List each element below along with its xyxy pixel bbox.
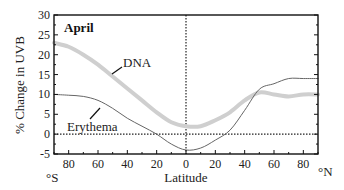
erythema-leader-line	[90, 108, 100, 119]
x-tick-label: 40	[239, 157, 251, 171]
x-tick-label: 20	[209, 157, 221, 171]
dna-leader-line	[112, 67, 122, 74]
y-tick-label: 15	[38, 68, 50, 82]
x-left-unit: °S	[46, 170, 58, 185]
y-tick-label: 0	[44, 127, 50, 141]
x-tick-label: 20	[151, 157, 163, 171]
x-tick-label: 40	[121, 157, 133, 171]
x-axis-title: Latitude	[164, 170, 208, 185]
y-tick-label: 5	[44, 107, 50, 121]
x-tick-label: 0	[183, 157, 189, 171]
series-annotations: DNAErythema	[67, 55, 152, 134]
erythema-label: Erythema	[67, 119, 118, 134]
y-axis-title: % Change in UVB	[12, 36, 27, 134]
chart-title: April	[64, 20, 94, 35]
x-tick-label: 80	[297, 157, 309, 171]
x-tick-label: 60	[92, 157, 104, 171]
y-tick-label: 25	[38, 28, 50, 42]
y-tick-label: 20	[38, 48, 50, 62]
x-right-unit: °N	[318, 164, 333, 179]
uvb-change-chart: -5051015202530 80604020020406080 April L…	[0, 0, 344, 190]
dna-label: DNA	[123, 55, 152, 70]
x-tick-label: 80	[63, 157, 75, 171]
y-tick-label: 30	[38, 8, 50, 22]
y-tick-label: -5	[40, 147, 50, 161]
x-axis: 80604020020406080	[54, 150, 318, 171]
x-tick-label: 60	[268, 157, 280, 171]
y-tick-label: 10	[38, 87, 50, 101]
